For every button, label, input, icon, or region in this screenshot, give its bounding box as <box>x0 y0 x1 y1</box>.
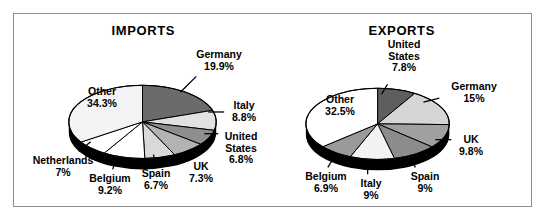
exports-label-spain: Spain 9% <box>401 171 449 194</box>
exports-label-uk: UK 9.8% <box>449 134 493 157</box>
exports-label-belgium: Belgium 6.9% <box>295 171 357 194</box>
exports-label-other: Other 32.5% <box>309 94 371 117</box>
imports-label-united-states: United States 6.8% <box>213 131 269 166</box>
imports-label-netherlands: Netherlands 7% <box>19 155 107 178</box>
imports-label-other: Other 34.3% <box>69 86 135 109</box>
imports-label-germany: Germany 19.9% <box>179 49 259 72</box>
imports-label-italy: Italy 8.8% <box>219 100 269 123</box>
exports-label-united-states: United States 7.8% <box>373 39 435 74</box>
exports-label-germany: Germany 15% <box>441 81 507 104</box>
exports-label-italy: Italy 9% <box>351 178 391 201</box>
imports-label-uk: UK 7.3% <box>181 161 221 184</box>
chart-frame: IMPORTS EXPORTS Germany 19.9%Italy 8.8%U… <box>13 13 532 207</box>
imports-leader-line <box>180 76 196 92</box>
